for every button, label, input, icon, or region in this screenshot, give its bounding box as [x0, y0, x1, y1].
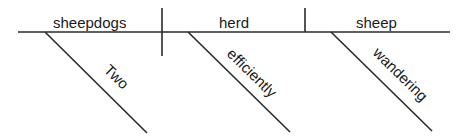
verb-modifier-word: efficiently	[224, 45, 281, 101]
object-modifier-word: wandering	[369, 43, 431, 104]
sentence-diagram: sheepdogs herd sheep Two efficiently wan…	[0, 0, 461, 140]
verb-word: herd	[219, 14, 249, 31]
subject-modifier-slant	[45, 32, 147, 133]
subject-word: sheepdogs	[53, 14, 126, 31]
object-word: sheep	[356, 14, 397, 31]
subject-modifier-word: Two	[101, 61, 133, 92]
